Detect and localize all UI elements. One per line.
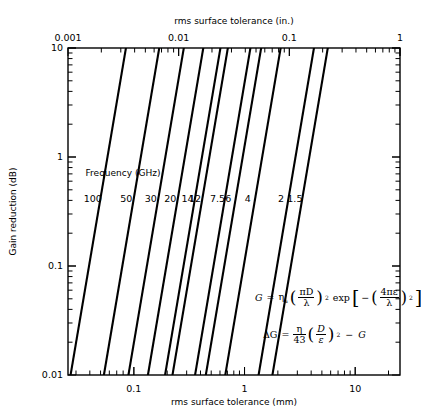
frequency-curve-100: [68, 35, 128, 388]
frequency-curve-12: [170, 35, 230, 388]
top-axis-title: rms surface tolerance (in.): [174, 16, 293, 26]
y-axis-tick-label: 10: [51, 42, 63, 53]
top-axis-tick-label: 0.1: [282, 32, 297, 43]
top-axis-tick-label: 0.001: [54, 32, 81, 43]
frequency-label-30: 30: [145, 193, 157, 204]
frequency-label-2: 2: [278, 193, 284, 204]
chart-svg: 0.0010.010.110.11100.010.1110rms surface…: [0, 0, 421, 417]
frequency-label-12: 12: [189, 193, 201, 204]
y-axis-tick-label: 0.1: [48, 260, 63, 271]
frequency-label-50: 50: [120, 193, 132, 204]
equation-delta-gain: ΔG=η43(Dε)2−G: [263, 324, 395, 345]
frequency-curve-14: [163, 35, 223, 388]
frequency-legend: Frequency (GHz)10050302014127.56421.5: [84, 168, 303, 204]
gain-reduction-nomograph-figure: 0.0010.010.110.11100.010.1110rms surface…: [0, 0, 421, 417]
frequency-curve-20: [146, 35, 206, 388]
y-axis-title: Gain reduction (dB): [8, 168, 18, 256]
bottom-axis-tick-label: 0.1: [126, 383, 141, 394]
equation-gain: G=ηa(πDλ)2exp[−(4πελ)2]: [255, 286, 395, 308]
frequency-label-4: 4: [245, 193, 251, 204]
bottom-axis-tick-label: 10: [349, 383, 361, 394]
frequency-curve-7-5: [193, 35, 253, 388]
y-axis-tick-label: 1: [57, 151, 63, 162]
bottom-axis-tick-label: 1: [242, 383, 248, 394]
frequency-curve-30: [126, 35, 186, 388]
top-axis-tick-label: 1: [397, 32, 403, 43]
frequency-label-7-5: 7.5: [210, 193, 225, 204]
bottom-axis-title: rms surface tolerance (mm): [171, 397, 297, 407]
frequency-label-6: 6: [225, 193, 231, 204]
frequency-curve-50: [102, 35, 162, 388]
equation-annotations: G=ηa(πDλ)2exp[−(4πελ)2]ΔG=η43(Dε)2−G: [255, 286, 395, 345]
frequency-label-100: 100: [84, 193, 102, 204]
frequency-label-1-5: 1.5: [287, 193, 302, 204]
top-axis-tick-label: 0.01: [168, 32, 189, 43]
frequency-legend-title: Frequency (GHz): [86, 168, 161, 178]
y-axis-tick-label: 0.01: [42, 369, 63, 380]
frequency-label-20: 20: [164, 193, 176, 204]
